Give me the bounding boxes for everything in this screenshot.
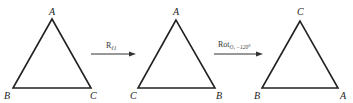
arrowhead-icon (129, 52, 136, 57)
triangle-2-bottom-left-label: C (130, 90, 137, 101)
triangle-2: A C B (130, 6, 222, 101)
arrowhead-icon (256, 52, 263, 57)
transformation-diagram: A B C Rℓ1 A C B RotO, −120° (0, 0, 353, 103)
triangle-3-apex-label: C (297, 6, 304, 17)
triangle-2-shape (138, 20, 215, 88)
triangle-1: A B C (4, 6, 97, 101)
rotation-label: RotO, −120° (218, 40, 251, 50)
triangle-3-bottom-left-label: B (254, 90, 260, 101)
triangle-2-apex-label: A (172, 6, 180, 17)
reflection-label: Rℓ1 (106, 41, 117, 51)
triangle-3-shape (262, 21, 338, 88)
rotation-arrow: RotO, −120° (214, 40, 263, 57)
triangle-1-apex-label: A (48, 6, 56, 17)
reflection-arrow: Rℓ1 (91, 41, 136, 57)
triangle-1-bottom-left-label: B (4, 90, 10, 101)
triangle-2-bottom-right-label: B (216, 90, 222, 101)
diagram-canvas: A B C Rℓ1 A C B RotO, −120° (0, 0, 353, 103)
triangle-3-bottom-right-label: A (339, 90, 347, 101)
triangle-1-bottom-right-label: C (90, 90, 97, 101)
triangle-3: C B A (254, 6, 347, 101)
triangle-1-shape (13, 19, 91, 88)
